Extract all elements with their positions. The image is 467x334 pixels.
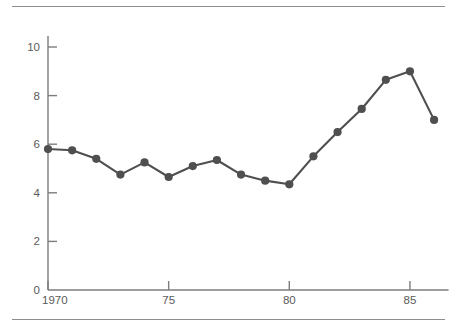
data-point-marker [68,146,76,154]
x-tick-label: 1970 [42,294,68,306]
data-point-marker [213,156,221,164]
data-point-marker [92,155,100,163]
data-point-marker [237,170,245,178]
data-point-marker [309,152,317,160]
data-point-marker [430,116,438,124]
data-point-marker [406,67,414,75]
data-point-marker [261,177,269,185]
data-point-marker [189,162,197,170]
data-point-marker [382,76,390,84]
data-point-marker [165,173,173,181]
y-axis: 0246810 [27,36,57,296]
x-tick-label: 85 [404,294,417,306]
data-point-marker [44,145,52,153]
x-axis: 1970758085 [42,281,449,306]
x-tick-label: 75 [162,294,175,306]
data-point-marker [358,105,366,113]
data-point-marker [285,180,293,188]
y-tick-label: 4 [34,187,41,199]
chart-figure: 0246810 1970758085 [0,0,467,334]
data-point-marker [140,158,148,166]
y-tick-label: 8 [34,90,40,102]
line-chart: 0246810 1970758085 [0,0,467,334]
y-tick-label: 10 [27,41,40,53]
x-tick-label: 80 [283,294,296,306]
data-point-marker [333,128,341,136]
y-tick-label: 0 [34,284,40,296]
chart-svg: 0246810 1970758085 [0,0,467,334]
data-series [44,67,438,188]
y-tick-label: 2 [34,235,40,247]
series-line [48,71,434,184]
data-point-marker [116,170,124,178]
y-tick-label: 6 [34,138,40,150]
